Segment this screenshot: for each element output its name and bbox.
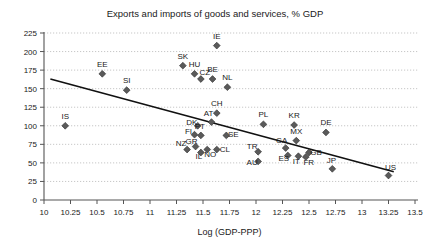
x-tick-label: 10.5 [89,208,105,217]
x-tick-label: 12.5 [301,208,317,217]
data-point-label: SE [228,130,239,139]
x-tick-label: 11 [146,208,155,217]
data-point-label: NL [222,73,233,82]
x-tick-label: 11.5 [196,208,212,217]
data-point-label: AU [247,158,258,167]
data-point-label: AT [204,109,214,118]
data-point-label: PL [259,110,269,119]
x-tick-label: 11.25 [167,208,187,217]
data-point-label: DE [320,118,331,127]
data-point-label: IE [213,32,221,41]
data-point-label: SK [178,52,189,61]
x-axis-title: Log (GDP-PPP) [197,227,261,237]
x-tick-label: 13 [358,208,367,217]
data-point-label: PT [195,122,205,131]
scatter-chart: Exports and imports of goods and service… [0,0,430,248]
y-tick-label: 100 [24,122,38,131]
x-tick-label: 10 [40,208,49,217]
data-point-marker [62,122,69,129]
data-point-label: CA [276,136,288,145]
data-point-marker [123,87,130,94]
data-point-label: IS [61,112,69,121]
data-point-label: IL [196,152,203,161]
data-point-label: CL [220,145,231,154]
data-point-label: US [385,163,396,172]
x-tick-label: 12.75 [325,208,346,217]
data-point-marker [213,110,220,117]
y-tick-label: 175 [24,66,38,75]
data-point-marker [293,137,300,144]
data-point-marker [213,42,220,49]
data-point-marker [224,84,231,91]
x-ticks: 1010.2510.510.751111.2511.511.751212.251… [40,200,424,217]
x-tick-label: 10.25 [60,208,81,217]
y-ticks: 0255075100125150175200225 [24,29,44,205]
data-point-label: JP [327,156,336,165]
data-point-label: FI [185,127,192,136]
data-point-marker [385,172,392,179]
data-point-label: SI [123,76,131,85]
data-point-label: GB [310,148,322,157]
data-point-label: MX [290,127,303,136]
data-point-marker [179,62,186,69]
y-tick-label: 0 [33,196,38,205]
data-points: IESKHUCZBENLEESIISCHATDKPLKRDEMXFIPTSENZ… [61,32,396,179]
x-tick-label: 12 [252,208,261,217]
y-tick-label: 125 [24,103,38,112]
data-point-label: FR [303,158,314,167]
data-point-label: BE [207,65,218,74]
data-point-marker [208,119,215,126]
data-point-marker [282,145,289,152]
y-tick-label: 150 [24,85,38,94]
y-tick-label: 225 [24,29,38,38]
data-point-label: GR [186,137,198,146]
data-point-marker [329,165,336,172]
x-tick-label: 10.75 [113,208,134,217]
data-point-label: ES [278,154,289,163]
x-tick-label: 13.5 [407,208,423,217]
y-gridlines [44,33,418,181]
data-point-marker [260,121,267,128]
x-tick-label: 13.25 [378,208,399,217]
data-point-marker [197,132,204,139]
x-tick-label: 11.75 [220,208,240,217]
y-tick-label: 200 [24,48,38,57]
x-tick-label: 12.25 [272,208,293,217]
data-point-label: EE [97,60,108,69]
data-point-label: CH [211,99,223,108]
data-point-label: TR [247,142,258,151]
data-point-marker [99,70,106,77]
y-tick-label: 25 [28,177,37,186]
data-point-label: IT [293,157,300,166]
data-point-label: KR [289,111,300,120]
plot-area: 0255075100125150175200225 1010.2510.510.… [0,0,430,248]
y-tick-label: 50 [28,159,37,168]
data-point-marker [191,70,198,77]
y-tick-label: 75 [28,140,37,149]
axis-lines [44,32,418,200]
data-point-marker [323,129,330,136]
